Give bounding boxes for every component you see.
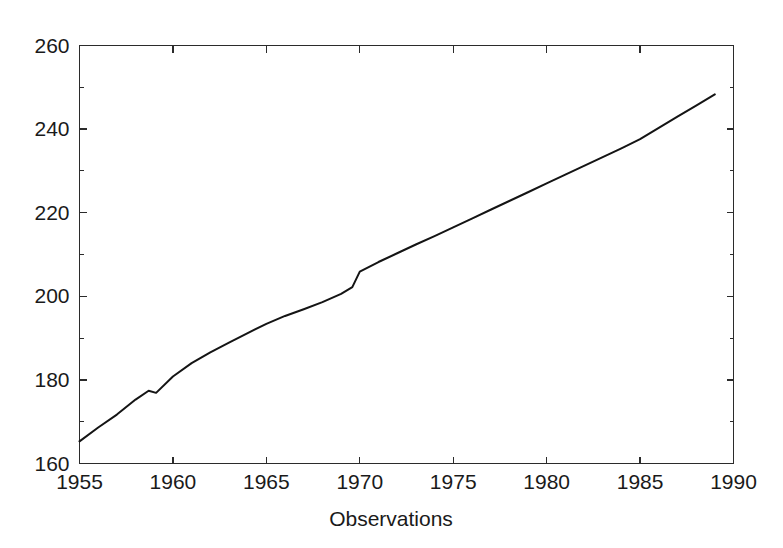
x-tick-label: 1970: [336, 470, 383, 493]
figure-background: [0, 0, 783, 548]
y-tick-label: 240: [34, 117, 69, 140]
chart-figure: 19551960196519701975198019851990 1601802…: [0, 0, 783, 548]
x-tick-label: 1960: [150, 470, 197, 493]
x-tick-label: 1965: [243, 470, 290, 493]
line-chart-canvas: 19551960196519701975198019851990 1601802…: [0, 0, 783, 548]
y-tick-label: 180: [34, 368, 69, 391]
x-tick-label: 1985: [617, 470, 664, 493]
x-tick-label: 1975: [430, 470, 477, 493]
y-tick-label: 220: [34, 201, 69, 224]
y-tick-label: 160: [34, 452, 69, 475]
y-tick-label: 200: [34, 284, 69, 307]
x-tick-label: 1980: [523, 470, 570, 493]
x-tick-label: 1990: [710, 470, 757, 493]
x-axis-title: Observations: [329, 507, 453, 530]
y-tick-label: 260: [34, 34, 69, 57]
